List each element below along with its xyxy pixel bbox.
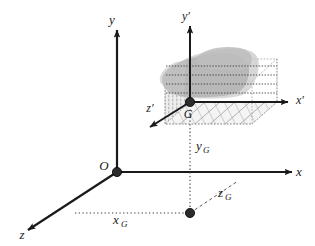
z-g-label-sub: G: [225, 192, 232, 202]
z-g-label: z G: [217, 185, 232, 202]
coordinate-frames-diagram: y x z O y′ x′ z′ G y G x G z G: [0, 0, 315, 246]
x-g-label-sub: G: [121, 219, 128, 229]
local-origin-label-g: G: [184, 107, 193, 121]
z-axis-label: z: [18, 227, 24, 242]
y-prime-axis-label: y′: [181, 9, 190, 23]
y-g-label-sub: G: [203, 145, 210, 155]
body-silhouette: [160, 47, 259, 99]
z-prime-axis-label: z′: [145, 101, 154, 115]
x-prime-axis-label: x′: [295, 93, 304, 107]
origin-node-o: [112, 167, 121, 176]
projection-node-ground: [185, 208, 194, 217]
y-axis-label: y: [107, 12, 115, 27]
z-g-label-base: z: [217, 185, 223, 200]
x-axis-label: x: [295, 164, 302, 179]
x-g-label: x G: [112, 212, 128, 229]
x-g-label-base: x: [112, 212, 119, 227]
diagram-canvas: y x z O y′ x′ z′ G y G x G z G: [0, 0, 315, 246]
y-g-label: y G: [194, 138, 210, 155]
origin-label-o: O: [99, 158, 109, 173]
z-axis-line: [28, 172, 117, 230]
y-g-label-base: y: [194, 138, 202, 153]
